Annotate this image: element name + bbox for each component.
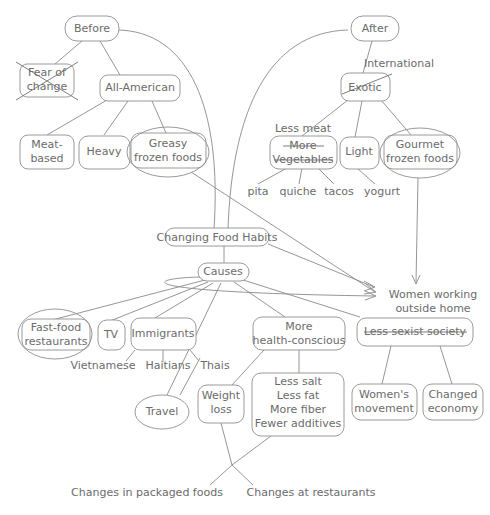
node-vietnamese-label: Vietnamese — [70, 359, 135, 372]
node-more-vegetables[interactable]: More Vegetables — [270, 136, 337, 169]
node-causes[interactable]: Causes — [198, 263, 249, 281]
node-quiche-label: quiche — [280, 185, 317, 198]
node-after-label: After — [362, 22, 389, 35]
node-haitians: Haitians — [146, 359, 191, 372]
node-all-american[interactable]: All-American — [100, 75, 180, 101]
node-vietnamese: Vietnamese — [70, 359, 135, 372]
edge-junction-changes-packaged-foods — [210, 465, 232, 485]
node-health-details-label-line2: Less fat — [277, 389, 320, 402]
edge-less-sexist-society-womens-movement — [382, 346, 391, 384]
edge-before-fear-of-change — [55, 41, 82, 64]
node-greasy-frozen-foods-label-line1: Greasy — [149, 137, 188, 150]
edge-changing-food-habits-women-working — [268, 244, 374, 287]
node-more-health-conscious-label-line2: health-conscious — [253, 334, 346, 347]
node-fast-food-restaurants[interactable]: Fast-food restaurants — [18, 309, 92, 359]
node-haitians-label: Haitians — [146, 359, 191, 372]
node-more-vegetables-label-line2: Vegetables — [273, 153, 334, 166]
node-thais-label: Thais — [199, 359, 229, 372]
node-fast-food-restaurants-label-line2: restaurants — [24, 335, 87, 348]
edge-before-all-american — [100, 41, 120, 75]
edge-more-vegetables-tacos — [318, 168, 334, 184]
edge-exotic-light — [355, 101, 362, 137]
node-greasy-frozen-foods-label-line2: frozen foods — [134, 151, 202, 164]
node-tacos: tacos — [324, 185, 354, 198]
edge-weight-loss-junction — [221, 423, 232, 465]
node-health-details-label-line1: Less salt — [274, 375, 322, 388]
edge-more-vegetables-pita — [258, 168, 287, 184]
node-fast-food-restaurants-label-line1: Fast-food — [31, 321, 81, 334]
edge-junction-changes-at-restaurants — [232, 465, 253, 485]
edge-before-changing-food-habits — [116, 30, 215, 229]
node-immigrants[interactable]: Immigrants — [131, 318, 196, 350]
node-more-health-conscious[interactable]: More health-conscious — [253, 317, 346, 350]
node-light-label: Light — [345, 145, 373, 158]
node-gourmet-frozen-foods-label-line1: Gourmet — [396, 138, 445, 151]
node-weight-loss[interactable]: Weight loss — [198, 385, 244, 423]
node-quiche: quiche — [280, 185, 317, 198]
node-yogurt: yogurt — [364, 185, 401, 198]
node-travel-label: Travel — [145, 405, 179, 418]
node-health-details-label-line3: More fiber — [270, 403, 326, 416]
edge-more-vegetables-quiche — [299, 168, 302, 184]
node-more-vegetables-label-line1: More — [289, 139, 317, 152]
node-health-details-label-line4: Fewer additives — [255, 417, 342, 430]
node-weight-loss-label-line2: loss — [210, 403, 232, 416]
concept-map-diagram: Before Fear of change All-American Meat-… — [0, 0, 490, 515]
node-meat-based[interactable]: Meat- based — [20, 135, 74, 169]
edge-gourmet-frozen-foods-women-working — [416, 178, 418, 283]
node-greasy-frozen-foods[interactable]: Greasy frozen foods — [127, 127, 209, 177]
node-women-working: Women working outside home — [389, 288, 478, 315]
node-international-label: International — [364, 57, 434, 70]
edge-all-american-heavy — [104, 101, 128, 135]
edge-causes-immigrants — [155, 283, 213, 318]
node-changing-food-habits[interactable]: Changing Food Habits — [157, 228, 278, 246]
node-after[interactable]: After — [351, 16, 399, 41]
node-meat-based-label-line1: Meat- — [31, 138, 62, 151]
node-heavy-label: Heavy — [87, 145, 122, 158]
node-before[interactable]: Before — [65, 16, 119, 41]
node-less-sexist-society-label: Less sexist society — [364, 325, 467, 338]
node-immigrants-label: Immigrants — [132, 327, 195, 340]
node-less-meat-label: Less meat — [275, 122, 332, 135]
node-before-label: Before — [74, 22, 110, 35]
node-changed-economy-label-line1: Changed — [428, 388, 477, 401]
node-heavy[interactable]: Heavy — [79, 136, 130, 169]
node-less-meat: Less meat — [275, 122, 332, 135]
node-international: International — [364, 57, 434, 70]
edge-all-american-meat-based — [47, 100, 107, 135]
node-changing-food-habits-label: Changing Food Habits — [157, 231, 278, 244]
node-changes-at-restaurants: Changes at restaurants — [247, 486, 376, 499]
node-gourmet-frozen-foods[interactable]: Gourmet frozen foods — [380, 128, 460, 178]
node-exotic[interactable]: Exotic — [341, 73, 392, 101]
node-weight-loss-label-line1: Weight — [202, 389, 241, 402]
node-changes-packaged-foods-label: Changes in packaged foods — [71, 486, 223, 499]
node-pita: pita — [247, 185, 268, 198]
node-layer: Before Fear of change All-American Meat-… — [16, 16, 483, 499]
node-changes-at-restaurants-label: Changes at restaurants — [247, 486, 376, 499]
node-changed-economy-label-line2: economy — [428, 402, 479, 415]
edge-health-details-junction — [232, 436, 271, 465]
node-exotic-label: Exotic — [348, 81, 381, 94]
node-health-details[interactable]: Less salt Less fat More fiber Fewer addi… — [252, 373, 344, 436]
node-womens-movement-label-line2: movement — [354, 402, 414, 415]
node-light[interactable]: Light — [340, 137, 379, 169]
node-travel[interactable]: Travel — [135, 395, 189, 429]
node-changed-economy[interactable]: Changed economy — [423, 384, 483, 420]
node-fear-of-change[interactable]: Fear of change — [16, 62, 78, 100]
edge-light-yogurt — [358, 169, 375, 184]
edge-less-sexist-society-changed-economy — [440, 346, 452, 384]
node-womens-movement[interactable]: Women's movement — [352, 384, 417, 420]
node-thais: Thais — [199, 359, 229, 372]
node-pita-label: pita — [247, 185, 268, 198]
node-less-sexist-society[interactable]: Less sexist society — [357, 318, 473, 346]
node-all-american-label: All-American — [105, 81, 175, 94]
node-tv[interactable]: TV — [98, 320, 125, 350]
node-gourmet-frozen-foods-label-line2: frozen foods — [386, 152, 454, 165]
node-womens-movement-label-line1: Women's — [359, 388, 409, 401]
node-yogurt-label: yogurt — [364, 185, 401, 198]
node-changes-packaged-foods: Changes in packaged foods — [71, 486, 223, 499]
node-fear-of-change-label-line2: change — [27, 80, 68, 93]
node-tv-label: TV — [103, 328, 119, 341]
node-women-working-label-line2: outside home — [395, 302, 470, 315]
concept-map-canvas: Before Fear of change All-American Meat-… — [0, 0, 490, 515]
